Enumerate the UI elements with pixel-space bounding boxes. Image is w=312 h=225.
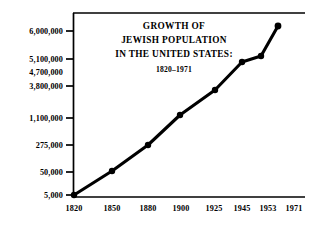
y-axis-label-4700000: 4,700,000 bbox=[29, 68, 63, 77]
y-axis-label-275000: 275,000 bbox=[36, 141, 63, 150]
chart-subtitle-date-range: 1820–1971 bbox=[156, 65, 192, 74]
data-point-1945 bbox=[239, 59, 245, 65]
population-growth-line-chart: 6,000,000 5,100,000 4,700,000 3,800,000 … bbox=[0, 0, 312, 225]
y-axis-labels: 6,000,000 5,100,000 4,700,000 3,800,000 … bbox=[29, 27, 63, 200]
chart-title-line-1: GROWTH OF bbox=[143, 21, 205, 31]
x-axis-label-1850: 1850 bbox=[104, 204, 121, 213]
data-point-1900 bbox=[177, 112, 183, 118]
chart-title-line-2: JEWISH POPULATION bbox=[121, 35, 227, 45]
y-axis-label-1100000: 1,100,000 bbox=[29, 114, 63, 123]
data-point-1971 bbox=[275, 23, 282, 30]
x-axis-label-1880: 1880 bbox=[140, 204, 157, 213]
chart-title-line-3: IN THE UNITED STATES: bbox=[115, 49, 233, 59]
chart-title-block: GROWTH OF JEWISH POPULATION IN THE UNITE… bbox=[115, 21, 233, 74]
data-point-1820 bbox=[71, 192, 77, 198]
x-axis-label-1820: 1820 bbox=[66, 204, 83, 213]
y-axis-ticks bbox=[66, 31, 73, 195]
y-axis-label-5000: 5,000 bbox=[44, 191, 63, 200]
x-axis-label-1945: 1945 bbox=[234, 204, 251, 213]
data-point-1850 bbox=[109, 168, 115, 174]
x-axis-label-1900: 1900 bbox=[173, 204, 190, 213]
y-axis-label-6000000: 6,000,000 bbox=[29, 27, 63, 36]
chart-page: 6,000,000 5,100,000 4,700,000 3,800,000 … bbox=[0, 0, 312, 225]
x-axis-label-1925: 1925 bbox=[206, 204, 223, 213]
y-axis-label-5100000: 5,100,000 bbox=[29, 55, 63, 64]
data-point-1953 bbox=[258, 53, 264, 59]
x-axis-label-1971: 1971 bbox=[286, 204, 303, 213]
y-axis-label-50000: 50,000 bbox=[40, 168, 63, 177]
y-axis-label-3800000: 3,800,000 bbox=[29, 82, 63, 91]
data-point-1880 bbox=[145, 142, 151, 148]
x-axis-label-1953: 1953 bbox=[260, 204, 277, 213]
data-point-1925 bbox=[212, 87, 218, 93]
x-axis-labels: 1820 1850 1880 1900 1925 1945 1953 1971 bbox=[66, 204, 303, 213]
